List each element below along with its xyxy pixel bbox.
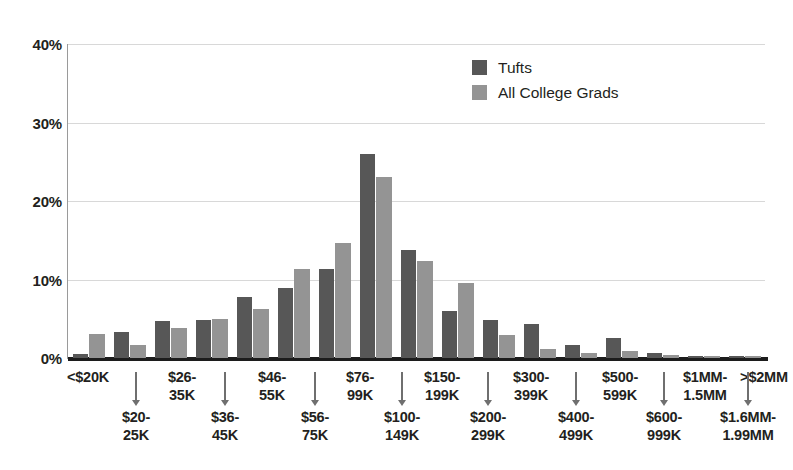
bar-tufts	[319, 269, 335, 358]
legend-label: Tufts	[498, 59, 532, 77]
bar-group	[319, 44, 351, 358]
bar-tufts	[401, 250, 417, 358]
x-label-line: $100-	[357, 408, 447, 426]
x-label-pointer-arrow-icon	[396, 372, 408, 406]
bar-group	[401, 44, 433, 358]
x-axis-label-top: $500-599K	[575, 368, 665, 404]
bar-tufts	[237, 297, 253, 358]
bar-tufts	[155, 321, 171, 358]
x-axis-label-bottom: $100-149K	[357, 408, 447, 444]
arrow-stem	[135, 372, 137, 400]
bar-group	[360, 44, 392, 358]
bar-all-college-grads	[622, 351, 638, 358]
x-axis-label-top: <$20K	[43, 368, 133, 386]
bar-all-college-grads	[458, 283, 474, 358]
x-label-line: 999K	[619, 426, 709, 444]
arrow-stem	[747, 372, 749, 400]
x-label-line: 35K	[137, 386, 227, 404]
x-label-line: 1.5MM	[660, 386, 750, 404]
x-label-line: $20-	[91, 408, 181, 426]
bar-all-college-grads	[417, 261, 433, 358]
arrow-head	[660, 400, 668, 406]
x-label-line: $600-	[619, 408, 709, 426]
arrow-head	[744, 400, 752, 406]
arrow-head	[484, 400, 492, 406]
bar-tufts	[565, 345, 581, 358]
x-label-line: 599K	[575, 386, 665, 404]
y-tick-label-30: 30%	[2, 114, 62, 131]
x-axis-label-bottom: $600-999K	[619, 408, 709, 444]
bar-all-college-grads	[171, 328, 187, 358]
x-axis-label-bottom: $36-45K	[180, 408, 270, 444]
x-axis-label-bottom: $400-499K	[531, 408, 621, 444]
legend-swatch-icon	[472, 85, 487, 100]
arrow-stem	[575, 372, 577, 400]
bar-tufts	[524, 324, 540, 358]
bar-tufts	[114, 332, 130, 358]
x-label-line: $300-	[486, 368, 576, 386]
bar-group	[729, 44, 761, 358]
y-tick-label-20: 20%	[2, 193, 62, 210]
x-axis-label-top: $150-199K	[397, 368, 487, 404]
x-label-line: 199K	[397, 386, 487, 404]
bar-tufts	[442, 311, 458, 358]
x-axis-label-top: >$2MM	[719, 368, 793, 386]
x-label-line: 45K	[180, 426, 270, 444]
arrow-head	[132, 400, 140, 406]
bar-group	[114, 44, 146, 358]
legend-item: Tufts	[472, 55, 712, 80]
bar-tufts	[606, 338, 622, 358]
bar-all-college-grads	[253, 309, 269, 358]
legend-label: All College Grads	[498, 84, 619, 102]
bar-group	[278, 44, 310, 358]
bar-group	[196, 44, 228, 358]
arrow-stem	[314, 372, 316, 400]
x-axis-label-top: $76-99K	[315, 368, 405, 404]
x-label-line: $56-	[270, 408, 360, 426]
legend-swatch-icon	[472, 60, 487, 75]
bar-all-college-grads	[376, 177, 392, 358]
bar-all-college-grads	[89, 334, 105, 358]
arrow-stem	[663, 372, 665, 400]
x-label-line: $500-	[575, 368, 665, 386]
x-label-pointer-arrow-icon	[482, 372, 494, 406]
bar-chart: 40%30%20%10%0% TuftsAll College Grads <$…	[0, 0, 793, 470]
y-tick-label-40: 40%	[2, 36, 62, 53]
x-axis-label-bottom: $20-25K	[91, 408, 181, 444]
bar-all-college-grads	[130, 345, 146, 358]
bar-all-college-grads	[335, 243, 351, 358]
arrow-stem	[224, 372, 226, 400]
x-label-line: 299K	[443, 426, 533, 444]
x-label-pointer-arrow-icon	[658, 372, 670, 406]
x-label-pointer-arrow-icon	[309, 372, 321, 406]
x-label-pointer-arrow-icon	[742, 372, 754, 406]
bar-all-college-grads	[212, 319, 228, 358]
x-axis-label-top: $26-35K	[137, 368, 227, 404]
arrow-head	[572, 400, 580, 406]
arrow-head	[398, 400, 406, 406]
bar-group	[237, 44, 269, 358]
x-label-line: 25K	[91, 426, 181, 444]
x-label-pointer-arrow-icon	[570, 372, 582, 406]
arrow-head	[221, 400, 229, 406]
bar-tufts	[360, 154, 376, 358]
x-label-line: 399K	[486, 386, 576, 404]
arrow-head	[311, 400, 319, 406]
x-label-line: $200-	[443, 408, 533, 426]
x-axis-labels: <$20K$26-35K$46-55K$76-99K$150-199K$300-…	[0, 358, 793, 470]
x-label-line: $36-	[180, 408, 270, 426]
x-label-line: 99K	[315, 386, 405, 404]
bar-group	[442, 44, 474, 358]
x-label-line: $46-	[227, 368, 317, 386]
arrow-stem	[487, 372, 489, 400]
x-axis-label-bottom: $1.6MM-1.99MM	[703, 408, 793, 444]
bar-tufts	[483, 320, 499, 358]
x-label-line: 55K	[227, 386, 317, 404]
bar-group	[73, 44, 105, 358]
bar-all-college-grads	[294, 269, 310, 358]
x-label-line: $26-	[137, 368, 227, 386]
x-label-pointer-arrow-icon	[219, 372, 231, 406]
x-label-line: $150-	[397, 368, 487, 386]
bar-tufts	[278, 288, 294, 358]
chart-legend: TuftsAll College Grads	[472, 55, 712, 105]
